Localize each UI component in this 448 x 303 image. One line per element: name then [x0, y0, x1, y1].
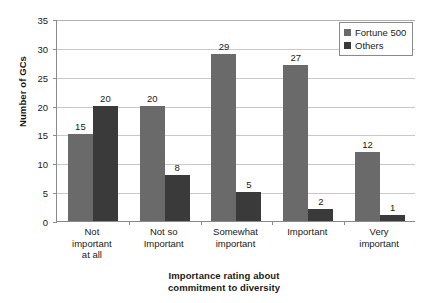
- x-category-label-line: Important: [128, 238, 200, 250]
- x-tick-mark: [129, 221, 130, 225]
- legend-item-label: Others: [355, 40, 384, 51]
- bar-others[interactable]: [165, 175, 190, 221]
- y-tick-label: 20: [2, 101, 48, 112]
- x-tick-mark: [344, 221, 345, 225]
- x-category-label-line: Very: [343, 226, 415, 238]
- chart-legend: Fortune 500Others: [339, 22, 413, 56]
- x-category-label-line: Somewhat: [200, 226, 272, 238]
- x-category-label-line: important: [343, 238, 415, 250]
- bar-fortune-500[interactable]: [68, 134, 93, 221]
- y-tick-label: 0: [2, 217, 48, 228]
- bar-fortune-500[interactable]: [140, 106, 165, 221]
- bar-group: 272: [272, 20, 344, 221]
- bar-value-label: 27: [290, 52, 301, 63]
- bar-group: 295: [201, 20, 273, 221]
- bar-value-label: 8: [175, 162, 180, 173]
- x-category-label-line: Important: [271, 226, 343, 238]
- legend-item[interactable]: Others: [344, 39, 406, 52]
- x-category-label-line: important: [200, 238, 272, 250]
- x-category-label-line: Not: [56, 226, 128, 238]
- bar-others[interactable]: [308, 209, 333, 221]
- x-category-label: Not soImportant: [128, 226, 200, 249]
- bar-value-label: 5: [246, 179, 251, 190]
- bar-fortune-500[interactable]: [355, 152, 380, 221]
- x-category-label: Important: [271, 226, 343, 238]
- y-tick-label: 10: [2, 159, 48, 170]
- bar-others[interactable]: [380, 215, 405, 221]
- bar-fortune-500[interactable]: [283, 65, 308, 221]
- bar-others[interactable]: [93, 106, 118, 221]
- bar-group: 1520: [57, 20, 129, 221]
- x-category-label: Somewhatimportant: [200, 226, 272, 249]
- bar-others[interactable]: [236, 192, 261, 221]
- y-tick-label: 5: [2, 188, 48, 199]
- y-tick-mark: [53, 222, 57, 223]
- bar-group: 208: [129, 20, 201, 221]
- bar-fortune-500[interactable]: [211, 54, 236, 221]
- bar-value-label: 15: [75, 121, 86, 132]
- bar-value-label: 12: [362, 139, 373, 150]
- x-category-label-line: important: [56, 238, 128, 250]
- bar-chart: Number of GCs 05101520253035 15202082952…: [0, 0, 448, 303]
- bar-value-label: 2: [318, 196, 323, 207]
- y-tick-label: 25: [2, 72, 48, 83]
- x-axis-title: Importance rating about commitment to di…: [0, 270, 448, 294]
- legend-item[interactable]: Fortune 500: [344, 26, 406, 39]
- y-tick-label: 30: [2, 43, 48, 54]
- x-category-label-line: Not so: [128, 226, 200, 238]
- x-axis-category-labels: Notimportantat allNot soImportantSomewha…: [56, 226, 415, 268]
- x-tick-mark: [272, 221, 273, 225]
- bar-value-label: 20: [147, 93, 158, 104]
- x-category-label: Notimportantat all: [56, 226, 128, 261]
- x-tick-mark: [201, 221, 202, 225]
- legend-swatch-icon: [344, 42, 351, 49]
- y-tick-label: 35: [2, 15, 48, 26]
- legend-swatch-icon: [344, 29, 351, 36]
- x-axis-title-line-1: Importance rating about: [0, 270, 448, 282]
- x-axis-title-line-2: commitment to diversity: [0, 282, 448, 294]
- y-tick-label: 15: [2, 130, 48, 141]
- legend-item-label: Fortune 500: [355, 27, 406, 38]
- bar-value-label: 1: [390, 202, 395, 213]
- bar-value-label: 29: [219, 41, 230, 52]
- x-category-label: Veryimportant: [343, 226, 415, 249]
- bar-value-label: 20: [100, 93, 111, 104]
- x-category-label-line: at all: [56, 249, 128, 261]
